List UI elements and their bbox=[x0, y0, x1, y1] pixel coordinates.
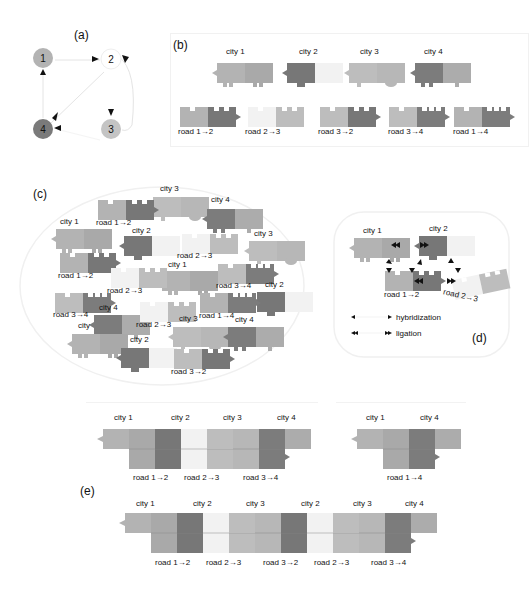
e3-city-3a-label: city 3 bbox=[246, 499, 265, 508]
legend-hyb-left bbox=[351, 315, 355, 319]
strand-city-c2 bbox=[177, 513, 229, 533]
panel-d-label: (d) bbox=[472, 331, 487, 345]
strand-road bbox=[233, 449, 290, 469]
e1-strand bbox=[97, 429, 315, 477]
strand-road bbox=[383, 449, 440, 469]
strand-city-c2 bbox=[281, 513, 333, 533]
e3-city-3b-label: city 3 bbox=[353, 499, 372, 508]
e3-road-23b-label: road 2→3 bbox=[314, 558, 349, 567]
e2-road-14-label: road 1→4 bbox=[387, 473, 422, 482]
e1-road-12-label: road 1→2 bbox=[133, 473, 168, 482]
strand-city-c3 bbox=[207, 429, 259, 449]
e1-city-1-label: city 1 bbox=[114, 413, 133, 422]
panel-e-label: (e) bbox=[80, 484, 95, 498]
e3-strand bbox=[119, 513, 441, 561]
e1-city-4-label: city 4 bbox=[277, 413, 296, 422]
strand-city-c4 bbox=[409, 429, 461, 449]
e3-road-23a-label: road 2→3 bbox=[206, 558, 241, 567]
e3-city-2b-label: city 2 bbox=[301, 499, 320, 508]
strand-city-c2 bbox=[155, 429, 207, 449]
strand-city-c4 bbox=[259, 429, 311, 449]
e3-city-1-label: city 1 bbox=[136, 499, 155, 508]
strand-road bbox=[203, 533, 260, 553]
legend-lig-right2 bbox=[388, 331, 392, 335]
strand-city-c3 bbox=[229, 513, 281, 533]
strand-city-c1 bbox=[119, 513, 177, 533]
strand-city-c1 bbox=[97, 429, 155, 449]
e2-city-4-label: city 4 bbox=[420, 413, 439, 422]
e3-city-4-label: city 4 bbox=[405, 499, 424, 508]
e1-road-23-label: road 2→3 bbox=[184, 473, 219, 482]
strand-road bbox=[359, 533, 416, 553]
legend-hyb-right bbox=[388, 315, 392, 319]
e2-city-1-label: city 1 bbox=[366, 413, 385, 422]
e1-road-34-label: road 3→4 bbox=[243, 473, 278, 482]
e2-strand bbox=[351, 429, 465, 477]
strand-city-c4 bbox=[385, 513, 437, 533]
e1-city-3-label: city 3 bbox=[223, 413, 242, 422]
e1-city-2-label: city 2 bbox=[171, 413, 190, 422]
strand-road bbox=[181, 449, 238, 469]
e3-road-12-label: road 1→2 bbox=[155, 558, 190, 567]
strand-road bbox=[129, 449, 186, 469]
strand-road bbox=[255, 533, 312, 553]
e3-road-34-label: road 3→4 bbox=[371, 558, 406, 567]
legend-ligation-label: ligation bbox=[396, 329, 421, 338]
strand-shape bbox=[97, 429, 315, 473]
strand-shape bbox=[119, 513, 441, 557]
strand-city-c3 bbox=[333, 513, 385, 533]
e3-road-32-label: road 3→2 bbox=[263, 558, 298, 567]
strand-road bbox=[307, 533, 364, 553]
e3-city-2a-label: city 2 bbox=[193, 499, 212, 508]
strand-city-c1 bbox=[351, 429, 409, 449]
strand-shape bbox=[351, 429, 465, 473]
strand-road bbox=[151, 533, 208, 553]
legend-hybridization-label: hybridization bbox=[396, 313, 441, 322]
